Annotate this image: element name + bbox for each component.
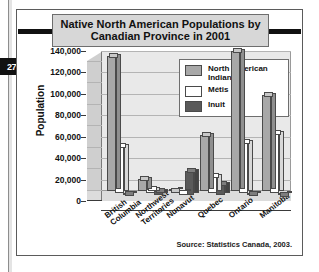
legend-label: North American Indian [208,64,283,82]
y-tick-label: 80,000 [35,110,81,120]
y-tick-label: 20,000 [35,175,81,185]
chart-panel: North American IndianMétisInuit [87,51,291,201]
bar-top [171,188,180,193]
bar-top [125,191,134,196]
bar-group [107,41,138,201]
bar-top [109,53,118,58]
bar-top [264,92,273,97]
bar [146,189,155,193]
x-axis-categories: British ColumbiaNorthwest TerritoriesNun… [87,213,297,265]
chart-figure: Native North American Populations by Can… [16,9,303,256]
bar-face [107,56,116,191]
y-tick-label: 0 [35,196,81,206]
chart-source: Source: Statistics Canada, 2003. [177,240,292,249]
bar-top [202,132,211,137]
bar-side [209,133,214,189]
bar [107,56,116,191]
bar-face [262,95,271,191]
bar [169,191,178,192]
bar-group [138,41,169,201]
y-tick-mark [81,94,86,95]
y-tick-label: 100,000 [35,89,81,99]
bar-top [233,48,242,53]
bar-top [187,168,196,173]
bar [231,51,240,191]
page-spine-shadow [9,0,12,272]
gridline-wall [87,125,102,126]
gridline-wall [87,190,102,191]
legend-swatch [185,101,202,112]
legend-label: Métis [208,85,228,94]
bar-top [140,176,149,181]
y-tick-label: 40,000 [35,153,81,163]
y-tick-label: 140,000 [35,46,81,56]
bar [278,195,287,196]
y-tick-mark [81,51,86,52]
bar-side [279,131,284,191]
bar-face [200,135,209,191]
y-tick-mark [81,201,86,202]
title-rule-left [18,29,56,34]
y-tick-label: 60,000 [35,132,81,142]
bar-top [280,192,289,197]
gridline-wall [87,104,102,105]
legend-label: Inuit [208,100,225,109]
bar [247,194,256,196]
bar-side [271,93,276,189]
bar [123,194,132,195]
bar [177,193,186,194]
y-tick-mark [81,137,86,138]
gridline-wall [87,168,102,169]
bar [200,135,209,191]
bar-top [249,191,258,196]
bar-side [116,54,121,189]
bar [262,95,271,191]
y-tick-label: 120,000 [35,67,81,77]
y-tick-mark [81,180,86,181]
bar-side [240,49,245,189]
bar-side [248,140,253,191]
y-tick-mark [81,115,86,116]
page-spine [0,0,9,272]
axis-base-left [87,200,102,201]
gridline-wall [87,61,102,62]
bar-side [124,144,129,191]
gridline-wall [87,147,102,148]
bar-face [231,51,240,191]
bar [154,191,163,195]
bar [138,179,147,191]
y-tick-mark [81,158,86,159]
gridline-wall [87,82,102,83]
legend-swatch [185,86,202,97]
chart-title: Native North American Populations by Can… [57,18,264,42]
plot-area: Population 020,00040,00060,00080,000100,… [29,51,291,221]
y-axis-ticks: 020,00040,00060,00080,000100,000120,0001… [29,51,81,201]
bar-top [179,190,188,195]
y-tick-mark [81,72,86,73]
legend-swatch [185,65,202,76]
